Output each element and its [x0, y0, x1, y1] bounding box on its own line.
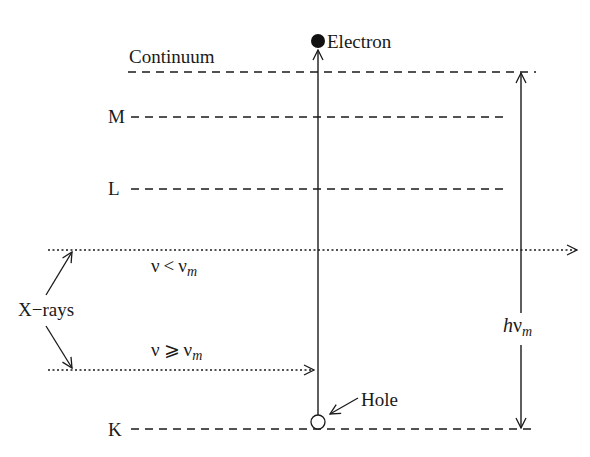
energy-span-label: hνm [503, 314, 532, 339]
level-label-m: M [108, 106, 125, 127]
xray-energy-diagram: Continuum M L K Electron Hole hνm [0, 0, 590, 457]
xrays-lower-pointer-arrow [46, 326, 72, 368]
level-label-k: K [108, 419, 122, 440]
xrays-label: X−rays [18, 299, 74, 320]
electron-dot-icon [311, 34, 325, 48]
level-label-l: L [108, 178, 120, 199]
hole-circle-icon [311, 415, 325, 429]
hole-pointer-arrow [330, 398, 358, 414]
electron-label: Electron [327, 31, 392, 52]
xray-lower-condition: ν⩾νm [151, 339, 202, 363]
xrays-upper-pointer-arrow [46, 252, 72, 295]
level-label-continuum: Continuum [129, 46, 215, 67]
hole-label: Hole [361, 389, 398, 410]
xray-upper-condition: ν<νm [151, 255, 197, 279]
